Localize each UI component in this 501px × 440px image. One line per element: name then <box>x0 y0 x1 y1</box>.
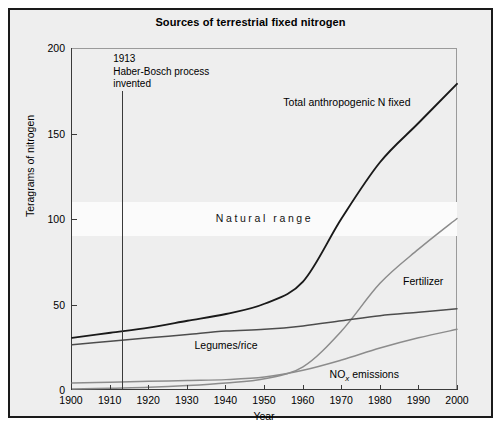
x-tick-label: 1970 <box>330 394 353 406</box>
x-axis-title: Year <box>71 410 457 422</box>
y-tick-label: 50 <box>35 299 65 311</box>
x-tick-mark <box>225 385 226 390</box>
series-path-nox-emissions <box>72 329 457 383</box>
y-tick-mark <box>71 134 77 135</box>
nox-label-main: NO <box>330 368 346 380</box>
x-tick-mark <box>264 385 265 390</box>
y-tick-label: 0 <box>35 384 65 396</box>
event-line2: Haber-Bosch process <box>113 66 209 79</box>
y-tick-label: 150 <box>35 128 65 140</box>
x-tick-mark <box>148 385 149 390</box>
chart-figure: Sources of terrestrial fixed nitrogen Te… <box>8 8 493 418</box>
x-tick-mark <box>110 385 111 390</box>
event-year: 1913 <box>113 53 209 66</box>
y-tick-mark <box>71 305 77 306</box>
x-tick-mark <box>71 385 72 390</box>
x-tick-label: 1980 <box>368 394 391 406</box>
chart-title: Sources of terrestrial fixed nitrogen <box>10 16 491 28</box>
series-label-fertilizer: Fertilizer <box>403 275 443 287</box>
x-tick-mark <box>418 385 419 390</box>
event-line3: invented <box>113 78 209 91</box>
x-tick-mark <box>341 385 342 390</box>
y-tick-label: 200 <box>35 42 65 54</box>
haber-bosch-annotation: 1913 Haber-Bosch process invented <box>113 53 209 91</box>
series-label-total: Total anthropogenic N fixed <box>283 96 410 108</box>
x-tick-mark <box>457 385 458 390</box>
x-tick-label: 2000 <box>445 394 468 406</box>
x-tick-label: 1910 <box>98 394 121 406</box>
x-tick-label: 1950 <box>252 394 275 406</box>
x-tick-mark <box>303 385 304 390</box>
x-tick-label: 1920 <box>137 394 160 406</box>
y-tick-label: 100 <box>35 213 65 225</box>
series-path-legumes-rice <box>72 309 457 345</box>
series-path-total-anthropogenic-n-fixed <box>72 84 457 338</box>
haber-bosch-marker-line <box>122 91 123 390</box>
x-tick-label: 1940 <box>214 394 237 406</box>
x-tick-mark <box>187 385 188 390</box>
x-tick-label: 1960 <box>291 394 314 406</box>
x-tick-mark <box>380 385 381 390</box>
nox-label-tail: emissions <box>349 368 399 380</box>
x-tick-label: 1930 <box>175 394 198 406</box>
series-label-nox: NOx emissions <box>330 368 399 383</box>
series-label-legumes: Legumes/rice <box>195 339 258 351</box>
y-tick-mark <box>71 219 77 220</box>
x-tick-label: 1990 <box>407 394 430 406</box>
